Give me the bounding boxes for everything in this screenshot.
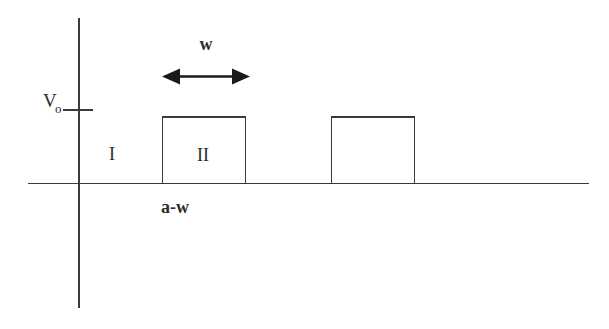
barrier-width-label: w (200, 34, 213, 54)
barrier-2 (332, 117, 415, 184)
potential-barrier-figure: V o I II w a-w (0, 0, 609, 329)
barrier-width-arrow-head-right (232, 69, 250, 85)
barrier-left-position-label: a-w (161, 197, 189, 217)
region-one-label: I (109, 144, 115, 164)
figure-canvas: V o I II w a-w (0, 0, 609, 329)
region-two-label: II (197, 145, 209, 165)
barrier-width-arrow (162, 69, 250, 85)
text-labels-group: V o I II w a-w (43, 34, 213, 217)
v-zero-label-subscript: o (55, 101, 62, 116)
barrier-width-arrow-head-left (162, 69, 180, 85)
